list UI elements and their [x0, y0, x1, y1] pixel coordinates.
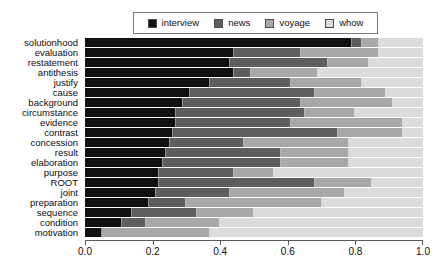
- bar-segment-whow: [379, 38, 423, 47]
- bar-segment-whow: [393, 98, 423, 107]
- bar-row: [85, 138, 423, 148]
- bar-segment-whow: [379, 48, 423, 57]
- bar-segment-interview: [85, 98, 183, 107]
- x-axis-tick: [422, 240, 423, 245]
- x-axis-tick-label: 0.0: [78, 247, 92, 257]
- bar-segment-news: [122, 218, 146, 227]
- bar-segment-voyage: [146, 218, 220, 227]
- x-axis-tick: [220, 240, 221, 245]
- y-axis-label-motivation: motivation: [35, 228, 78, 238]
- bar-segment-news: [183, 98, 301, 107]
- legend-swatch-news-icon: [214, 19, 223, 28]
- x-axis-tick: [153, 240, 154, 245]
- bar-segment-voyage: [281, 148, 349, 157]
- bar-segment-whow: [403, 128, 423, 137]
- bar-segment-voyage: [251, 68, 319, 77]
- bar-segment-news: [132, 208, 196, 217]
- bar-row: [85, 128, 423, 138]
- bar-segment-news: [176, 108, 304, 117]
- legend-entry-interview: interview: [148, 18, 200, 28]
- stacked-bar-chart: interview news voyage whow solutionhoode…: [0, 0, 440, 276]
- bar-segment-whow: [372, 178, 423, 187]
- bar-row: [85, 208, 423, 218]
- bar-segment-interview: [85, 168, 159, 177]
- bar-segment-whow: [274, 168, 423, 177]
- bar-segment-news: [234, 48, 302, 57]
- x-axis-tick-label: 0.4: [213, 247, 227, 257]
- bar-segment-news: [170, 138, 244, 147]
- bar-row: [85, 98, 423, 108]
- chart-legend: interview news voyage whow: [133, 12, 378, 34]
- bar-segment-whow: [210, 228, 423, 237]
- bar-segment-news: [352, 38, 362, 47]
- bar-segment-news: [210, 78, 291, 87]
- x-axis-tick: [355, 240, 356, 245]
- bar-segment-voyage: [230, 188, 345, 197]
- bar-segment-voyage: [234, 168, 275, 177]
- bar-segment-interview: [85, 188, 156, 197]
- legend-label-interview: interview: [162, 18, 200, 28]
- bar-segment-interview: [85, 78, 210, 87]
- bar-segment-voyage: [102, 228, 210, 237]
- plot-area: [85, 38, 423, 238]
- legend-label-whow: whow: [339, 18, 363, 28]
- x-axis-tick: [85, 240, 86, 245]
- bar-segment-voyage: [244, 138, 349, 147]
- bar-segment-interview: [85, 58, 230, 67]
- bar-segment-whow: [349, 158, 423, 167]
- legend-label-news: news: [228, 18, 250, 28]
- bar-segment-news: [176, 118, 291, 127]
- bar-segment-news: [163, 158, 281, 167]
- bar-segment-interview: [85, 178, 159, 187]
- x-axis-tick-label: 1.0: [416, 247, 430, 257]
- bar-segment-voyage: [291, 78, 362, 87]
- bar-row: [85, 48, 423, 58]
- bar-segment-news: [230, 58, 328, 67]
- bar-segment-voyage: [301, 98, 392, 107]
- x-axis-tick-label: 0.2: [146, 247, 160, 257]
- bar-segment-interview: [85, 38, 352, 47]
- legend-swatch-whow-icon: [325, 19, 334, 28]
- y-axis-category-labels: solutionhoodevaluationrestatementantithe…: [0, 38, 82, 238]
- bar-segment-news: [149, 198, 186, 207]
- bar-segment-voyage: [338, 128, 402, 137]
- bar-segment-voyage: [315, 178, 372, 187]
- bar-segment-interview: [85, 68, 234, 77]
- bar-segment-voyage: [315, 88, 386, 97]
- bar-segment-whow: [386, 88, 423, 97]
- legend-entry-voyage: voyage: [265, 18, 310, 28]
- bar-row: [85, 68, 423, 78]
- bar-segment-interview: [85, 158, 163, 167]
- bar-segment-interview: [85, 88, 190, 97]
- bar-segment-whow: [345, 188, 423, 197]
- bar-segment-voyage: [281, 158, 349, 167]
- bar-row: [85, 168, 423, 178]
- bar-segment-voyage: [305, 108, 356, 117]
- bar-row: [85, 158, 423, 168]
- bar-segment-news: [159, 178, 314, 187]
- bar-segment-voyage: [197, 208, 254, 217]
- bar-segment-whow: [362, 78, 423, 87]
- bar-segment-interview: [85, 128, 173, 137]
- x-axis-tick-label: 0.8: [348, 247, 362, 257]
- bar-row: [85, 218, 423, 228]
- x-axis: 0.00.20.40.60.81.0: [85, 240, 423, 241]
- bar-segment-interview: [85, 198, 149, 207]
- bar-segment-news: [173, 128, 339, 137]
- bar-row: [85, 228, 423, 238]
- bar-row: [85, 88, 423, 98]
- bar-segment-voyage: [186, 198, 321, 207]
- x-axis-tick-label: 0.6: [281, 247, 295, 257]
- bar-segment-news: [234, 68, 251, 77]
- bar-segment-whow: [318, 68, 423, 77]
- bar-row: [85, 108, 423, 118]
- bar-segment-whow: [369, 58, 423, 67]
- bar-segment-whow: [322, 198, 423, 207]
- bar-segment-whow: [403, 118, 423, 127]
- bar-segment-interview: [85, 218, 122, 227]
- bar-segment-news: [190, 88, 315, 97]
- bar-row: [85, 198, 423, 208]
- bar-segment-whow: [349, 138, 423, 147]
- bar-row: [85, 118, 423, 128]
- bar-segment-interview: [85, 208, 132, 217]
